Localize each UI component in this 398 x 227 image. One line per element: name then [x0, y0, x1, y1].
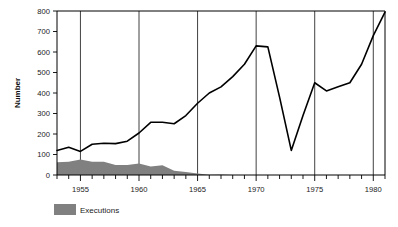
plot-background	[57, 11, 385, 175]
chart-figure: 0100200300400500600700800 19551960196519…	[0, 0, 398, 227]
y-tick-label-0: 0	[46, 171, 50, 180]
x-tick-label-1960: 1960	[131, 185, 148, 194]
y-tick-label-200: 200	[37, 130, 50, 139]
y-tick-label-500: 500	[37, 68, 50, 77]
y-axis-title: Number	[13, 78, 22, 108]
y-axis-tick-labels: 0100200300400500600700800	[37, 7, 50, 180]
chart-legend: Executions	[54, 204, 119, 215]
y-axis-title-text: Number	[13, 78, 22, 108]
x-tick-label-1980: 1980	[365, 185, 382, 194]
y-tick-label-600: 600	[37, 48, 50, 57]
legend-label-executions: Executions	[80, 206, 119, 215]
x-tick-label-1955: 1955	[72, 185, 89, 194]
y-tick-label-700: 700	[37, 27, 50, 36]
y-tick-label-100: 100	[37, 150, 50, 159]
y-tick-label-300: 300	[37, 109, 50, 118]
x-tick-label-1970: 1970	[248, 185, 265, 194]
x-axis-tick-labels: 195519601965197019751980	[72, 185, 382, 194]
y-tick-label-800: 800	[37, 7, 50, 16]
x-tick-label-1965: 1965	[189, 185, 206, 194]
y-tick-label-400: 400	[37, 89, 50, 98]
chart-canvas: 0100200300400500600700800 19551960196519…	[0, 0, 398, 227]
x-tick-label-1975: 1975	[306, 185, 323, 194]
legend-swatch-executions	[54, 204, 76, 215]
x-axis-ticks	[57, 175, 385, 181]
